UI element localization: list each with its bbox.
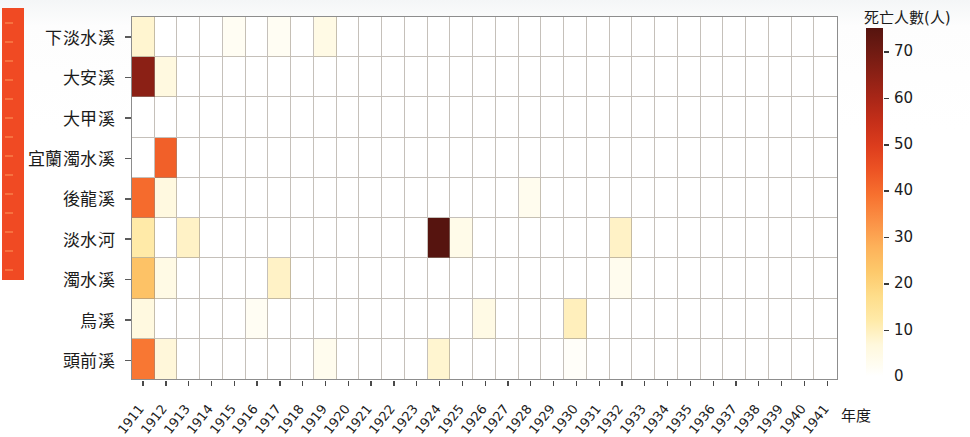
heatmap-cell: [519, 17, 542, 57]
heatmap-cell: [541, 299, 564, 339]
heatmap-cell: [632, 17, 655, 57]
heatmap-cell: [792, 57, 815, 97]
heatmap-cell: [268, 57, 291, 97]
x-axis-tick: [713, 381, 714, 386]
heatmap-cell: [723, 97, 746, 137]
heatmap-cell: [564, 97, 587, 137]
heatmap-cell: [655, 299, 678, 339]
heatmap-cell: [814, 138, 837, 178]
heatmap-cell: [655, 57, 678, 97]
heatmap-cell: [223, 218, 246, 258]
heatmap-cell: [632, 57, 655, 97]
heatmap-cell: [268, 138, 291, 178]
heatmap-cell: [314, 258, 337, 298]
heatmap-cell: [701, 57, 724, 97]
heatmap-cell: [792, 258, 815, 298]
heatmap-cell: [541, 258, 564, 298]
heatmap-cell: [223, 138, 246, 178]
heatmap-cell: [564, 218, 587, 258]
heatmap-cell: [541, 97, 564, 137]
heatmap-cell: [405, 258, 428, 298]
heatmap-cell: [519, 138, 542, 178]
heatmap-cell: [382, 17, 405, 57]
heatmap-cell: [450, 57, 473, 97]
heatmap-cell: [655, 17, 678, 57]
heatmap-cell: [337, 138, 360, 178]
heatmap-cell: [359, 299, 382, 339]
heatmap-cell: [155, 339, 178, 379]
heatmap-cell: [428, 57, 451, 97]
heatmap-cell: [723, 57, 746, 97]
heatmap-cell: [291, 57, 314, 97]
heatmap-cell: [632, 299, 655, 339]
heatmap-cell: [450, 138, 473, 178]
heatmap-cell: [428, 299, 451, 339]
heatmap-cell: [291, 218, 314, 258]
heatmap-cell: [405, 178, 428, 218]
heatmap-plot-area: [131, 16, 838, 380]
heatmap-cell: [246, 339, 269, 379]
heatmap-cell: [337, 97, 360, 137]
x-axis-tick: [234, 381, 235, 386]
heatmap-cell: [701, 258, 724, 298]
heatmap-cell: [428, 178, 451, 218]
heatmap-cell: [223, 258, 246, 298]
heatmap-cell: [496, 339, 519, 379]
heatmap-cell: [268, 17, 291, 57]
heatmap-cell: [382, 299, 405, 339]
heatmap-cell: [177, 138, 200, 178]
heatmap-cell: [564, 57, 587, 97]
heatmap-cell: [746, 138, 769, 178]
heatmap-cell: [132, 218, 155, 258]
heatmap-cell: [291, 258, 314, 298]
x-axis-tick: [142, 381, 143, 386]
x-axis-tick: [644, 381, 645, 386]
heatmap-cell: [746, 178, 769, 218]
heatmap-cell: [473, 218, 496, 258]
heatmap-cell: [655, 97, 678, 137]
heatmap-cell: [632, 218, 655, 258]
colorbar: 死亡人數(人) 010203040506070: [856, 14, 968, 394]
heatmap-cell: [337, 57, 360, 97]
heatmap-cell: [519, 57, 542, 97]
heatmap-cell: [678, 218, 701, 258]
x-axis-title: 年度: [841, 404, 871, 425]
heatmap-cell: [359, 339, 382, 379]
heatmap-cell: [723, 178, 746, 218]
heatmap-cell: [359, 178, 382, 218]
heatmap-cell: [428, 218, 451, 258]
heatmap-cell: [769, 258, 792, 298]
heatmap-cell: [177, 339, 200, 379]
heatmap-cell: [632, 178, 655, 218]
x-axis-tick: [735, 381, 736, 386]
heatmap-cell: [610, 258, 633, 298]
heatmap-cell: [587, 17, 610, 57]
heatmap-cell: [814, 258, 837, 298]
heatmap-cell: [519, 258, 542, 298]
heatmap-cell: [200, 57, 223, 97]
x-axis-tick: [599, 381, 600, 386]
heatmap-cell: [587, 138, 610, 178]
heatmap-cell: [746, 218, 769, 258]
y-axis-label: 後龍溪: [0, 178, 124, 218]
heatmap-cell: [291, 339, 314, 379]
heatmap-cell: [769, 339, 792, 379]
heatmap-cell: [155, 178, 178, 218]
heatmap-cell: [314, 218, 337, 258]
heatmap-cell: [155, 258, 178, 298]
heatmap-cell: [200, 97, 223, 137]
heatmap-cell: [519, 178, 542, 218]
heatmap-cell: [678, 299, 701, 339]
colorbar-tick: [884, 98, 889, 100]
x-axis-tick: [621, 381, 622, 386]
heatmap-cell: [246, 17, 269, 57]
heatmap-cell: [200, 17, 223, 57]
x-axis-tick: [530, 381, 531, 386]
heatmap-cell: [132, 138, 155, 178]
heatmap-cell: [519, 299, 542, 339]
heatmap-cell: [132, 258, 155, 298]
heatmap-cell: [655, 339, 678, 379]
heatmap-cell: [496, 258, 519, 298]
heatmap-cell: [678, 97, 701, 137]
heatmap-cell: [268, 339, 291, 379]
